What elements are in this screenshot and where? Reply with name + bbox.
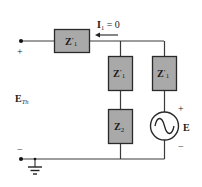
ground-junction [34,158,37,161]
circuit-diagram: Z'1 Z'1 Z'1 Z2 + E − I1 = 0 + − ETh [0,0,202,187]
component-z2: Z2 [109,110,133,144]
component-z1-right: Z'1 [153,57,177,91]
source-minus-label: − [178,141,184,152]
ac-source [151,112,179,140]
source-plus-label: + [178,103,184,114]
component-z1-series: Z'1 [55,30,90,53]
wires [21,41,165,167]
ground-icon [28,167,42,174]
component-z1-middle: Z'1 [109,57,133,91]
eth-label: ETh [15,93,29,105]
terminal-minus-label: − [17,144,23,155]
current-label: I1 = 0 [97,19,120,31]
current-arrow-icon [95,33,118,38]
terminal-top [19,39,23,43]
source-e-label: E [183,122,190,133]
terminal-bottom [19,157,23,161]
terminal-plus-label: + [17,46,23,57]
